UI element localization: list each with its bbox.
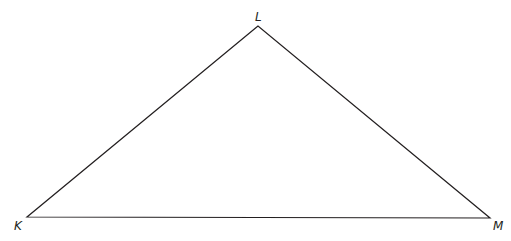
triangle-klm [27,26,490,218]
vertex-label-l: L [255,10,262,24]
vertex-label-m: M [493,219,504,233]
triangle-diagram: L K M [0,0,511,241]
vertex-label-k: K [14,219,23,233]
